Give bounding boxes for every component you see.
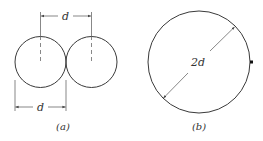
- figure-b: 2d (b): [148, 11, 253, 132]
- bottom-dimension-label: d: [37, 101, 44, 114]
- diagram-canvas: d d (a) 2d (b): [0, 0, 263, 141]
- caption-b: (b): [192, 121, 206, 132]
- caption-a: (a): [56, 121, 70, 132]
- diameter-label: 2d: [190, 56, 205, 69]
- diameter-arrow-lower: [164, 73, 189, 98]
- top-dimension-label: d: [62, 10, 69, 23]
- diameter-arrow-upper: [210, 27, 235, 51]
- edge-dot: [250, 61, 253, 64]
- figure-a: d d (a): [15, 10, 117, 133]
